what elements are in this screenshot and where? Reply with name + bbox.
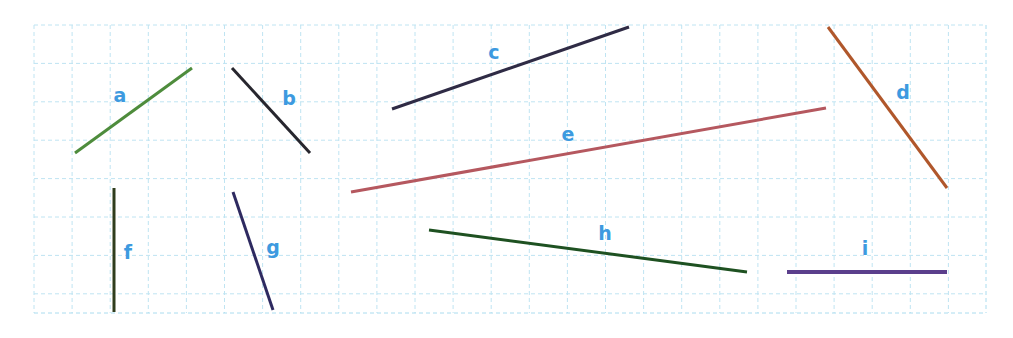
line-segment-b <box>232 68 310 153</box>
line-segment-figure <box>0 0 1013 338</box>
line-segment-h <box>429 230 747 272</box>
line-segment-d <box>828 27 947 188</box>
figure-canvas: abcdefghi <box>0 0 1013 338</box>
line-segment-c <box>392 27 629 109</box>
line-segment-g <box>233 192 273 310</box>
segments-layer <box>75 27 947 312</box>
line-segment-e <box>351 108 826 192</box>
